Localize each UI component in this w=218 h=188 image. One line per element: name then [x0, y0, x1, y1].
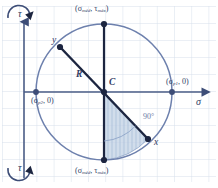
mohrs-circle-canvas: [0, 0, 218, 188]
marker-sigma-p2: [33, 89, 39, 95]
marker-tau-max-top: [101, 21, 107, 27]
marker-center: [101, 89, 107, 95]
marker-sigma-p1: [169, 89, 175, 95]
marker-point-y: [57, 44, 63, 50]
marker-point-x: [145, 136, 151, 142]
mohrs-circle-figure: τ τ σ (σméd, τmáx) (σméd, τmáx) (σp1, 0)…: [0, 0, 218, 188]
marker-tau-max-bottom: [101, 157, 107, 163]
